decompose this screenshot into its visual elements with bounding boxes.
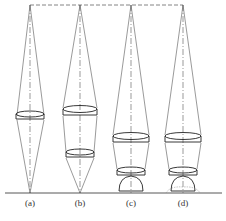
diagram-canvas — [0, 0, 226, 221]
panel-c — [113, 5, 149, 193]
label-c: (c) — [116, 198, 146, 208]
panel-a — [16, 5, 44, 193]
panel-b — [63, 5, 97, 193]
label-a: (a) — [15, 198, 45, 208]
label-b: (b) — [65, 198, 95, 208]
label-d: (d) — [168, 198, 198, 208]
panel-d — [165, 5, 201, 193]
